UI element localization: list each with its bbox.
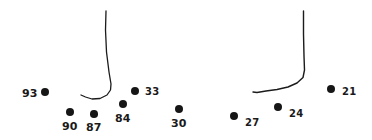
landmark-point-24[interactable] [274,103,282,111]
landmark-label-21: 21 [342,87,356,97]
left-outline-curve [81,11,111,99]
landmark-label-93: 93 [22,88,38,99]
landmark-point-87[interactable] [90,110,98,118]
landmark-point-27[interactable] [230,112,238,120]
landmark-point-93[interactable] [41,88,49,96]
landmark-label-87: 87 [86,122,102,133]
landmark-label-90: 90 [62,121,78,132]
right-outline-curve [253,11,305,93]
landmark-label-30: 30 [171,118,187,129]
landmark-point-90[interactable] [66,108,74,116]
landmark-label-24: 24 [289,109,303,119]
landmark-point-30[interactable] [175,105,183,113]
landmark-label-33: 33 [145,87,159,97]
landmark-label-84: 84 [115,113,131,124]
landmark-figure: 939087843330272421 [0,0,372,140]
landmark-label-27: 27 [245,118,259,128]
